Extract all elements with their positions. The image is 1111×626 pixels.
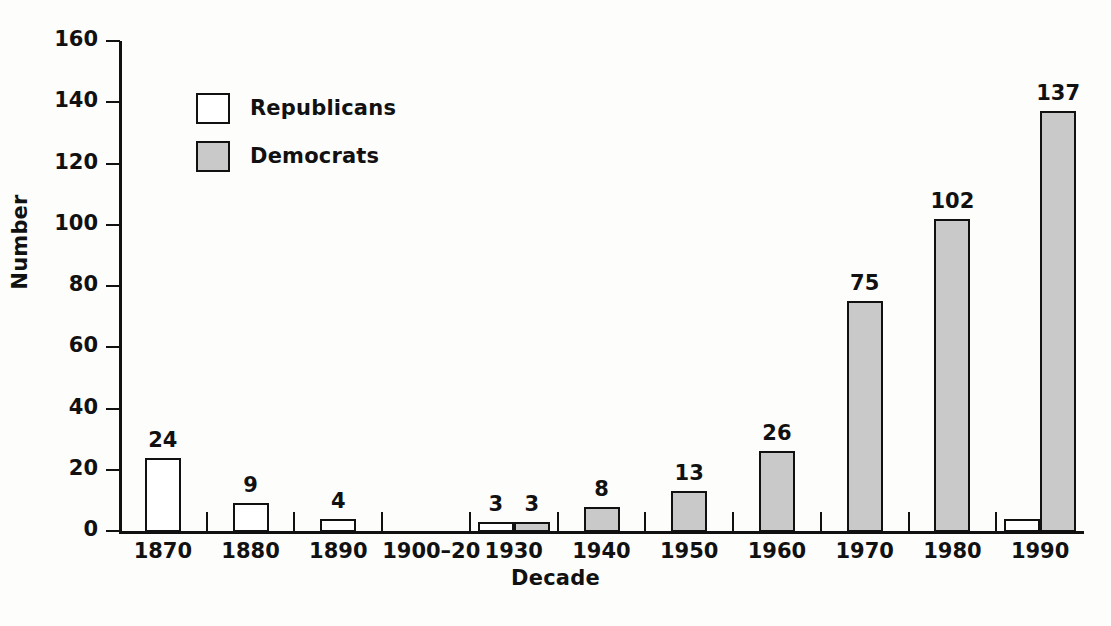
bar-republicans-1990 — [1004, 519, 1040, 532]
bar-democrats-1930 — [514, 522, 550, 532]
bar-value-democrats-1950: 13 — [657, 461, 721, 485]
y-tick-20 — [106, 469, 120, 471]
bar-republicans-1880 — [233, 503, 269, 532]
y-tick-label-120: 120 — [36, 150, 98, 174]
legend-swatch-republicans — [196, 93, 230, 124]
y-tick-40 — [106, 408, 120, 410]
x-tick-1 — [206, 512, 208, 532]
x-tick-9 — [908, 512, 910, 532]
bar-democrats-1970 — [847, 301, 883, 532]
y-axis-title: Number — [8, 182, 32, 302]
legend-item-democrats: Democrats — [196, 136, 396, 176]
y-tick-label-0: 0 — [36, 517, 98, 541]
y-tick-80 — [106, 285, 120, 287]
x-tick-2 — [293, 512, 295, 532]
legend-label-republicans: Republicans — [250, 96, 396, 120]
legend: Republicans Democrats — [196, 88, 396, 184]
x-tick-label-1890: 1890 — [294, 539, 382, 563]
x-tick-label-1990: 1990 — [996, 539, 1084, 563]
y-tick-label-80: 80 — [36, 272, 98, 296]
y-tick-60 — [106, 346, 120, 348]
x-axis-title: Decade — [0, 566, 1111, 590]
y-tick-label-100: 100 — [36, 211, 98, 235]
x-tick-label-1940: 1940 — [558, 539, 646, 563]
y-tick-0 — [106, 530, 120, 532]
bar-value-democrats-1990: 137 — [1026, 81, 1090, 105]
y-tick-label-40: 40 — [36, 395, 98, 419]
bar-value-republicans-1880: 9 — [219, 473, 283, 497]
x-tick-label-1900-20: 1900–20 — [382, 539, 470, 563]
y-tick-label-160: 160 — [36, 27, 98, 51]
bar-democrats-1960 — [759, 451, 795, 532]
bar-value-democrats-1930: 3 — [500, 492, 564, 516]
y-tick-label-20: 20 — [36, 456, 98, 480]
x-tick-10 — [995, 512, 997, 532]
x-tick-label-1950: 1950 — [645, 539, 733, 563]
legend-label-democrats: Democrats — [250, 144, 379, 168]
x-tick-6 — [644, 512, 646, 532]
y-tick-label-60: 60 — [36, 333, 98, 357]
x-tick-7 — [732, 512, 734, 532]
x-tick-label-1870: 1870 — [119, 539, 207, 563]
bar-democrats-1940 — [584, 507, 620, 533]
y-axis-line — [119, 41, 122, 534]
x-tick-label-1970: 1970 — [821, 539, 909, 563]
y-tick-160 — [106, 40, 120, 42]
y-tick-120 — [106, 163, 120, 165]
bar-republicans-1870 — [145, 458, 181, 533]
x-tick-3 — [381, 512, 383, 532]
bar-democrats-1950 — [671, 491, 707, 532]
x-tick-label-1960: 1960 — [733, 539, 821, 563]
bar-democrats-1980 — [934, 219, 970, 532]
y-tick-label-140: 140 — [36, 88, 98, 112]
y-tick-100 — [106, 224, 120, 226]
bar-value-democrats-1960: 26 — [745, 421, 809, 445]
x-tick-label-1980: 1980 — [909, 539, 997, 563]
x-tick-label-1880: 1880 — [207, 539, 295, 563]
bar-republicans-1890 — [320, 519, 356, 532]
legend-item-republicans: Republicans — [196, 88, 396, 128]
bar-value-republicans-1890: 4 — [306, 489, 370, 513]
x-tick-8 — [820, 512, 822, 532]
bar-chart: Number Decade 020406080100120140160 1870… — [0, 0, 1111, 626]
bar-republicans-1930 — [478, 522, 514, 532]
bar-democrats-1990 — [1040, 111, 1076, 532]
y-tick-140 — [106, 101, 120, 103]
bar-value-republicans-1870: 24 — [131, 428, 195, 452]
legend-swatch-democrats — [196, 141, 230, 172]
bar-value-democrats-1980: 102 — [920, 189, 984, 213]
x-tick-label-1930: 1930 — [470, 539, 558, 563]
bar-value-democrats-1940: 8 — [570, 477, 634, 501]
bar-value-democrats-1970: 75 — [833, 271, 897, 295]
